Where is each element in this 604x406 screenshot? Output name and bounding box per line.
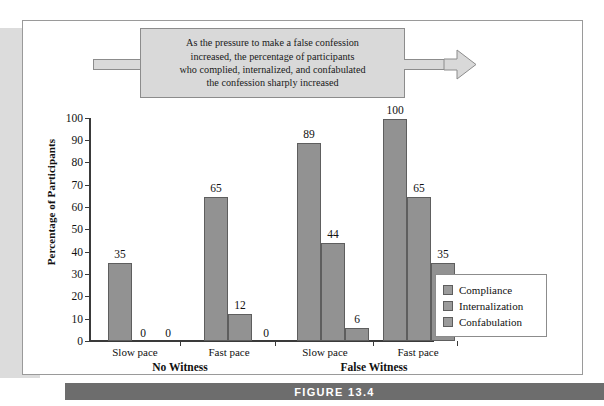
bar-label-falsewitness-fast-compliance: 100 <box>380 104 410 116</box>
x-cluster-label-no-witness: No Witness <box>115 361 245 373</box>
bar-label-nowitness-fast-internalization: 12 <box>225 299 255 311</box>
figure-caption-bar: FIGURE 13.4 <box>65 383 604 400</box>
bar-falsewitness-fast-internalization <box>407 197 431 341</box>
bar-label-falsewitness-fast-internalization: 65 <box>404 182 434 194</box>
legend-swatch-confabulation <box>443 317 453 327</box>
bar-label-nowitness-slow-internalization: 0 <box>135 327 151 339</box>
bar-falsewitness-slow-confabulation <box>345 328 369 341</box>
x-group-label-nowitness-slow: Slow pace <box>95 346 175 358</box>
bar-falsewitness-fast-compliance <box>383 119 407 341</box>
y-tick-label-10: 10 <box>55 313 83 325</box>
bar-nowitness-fast-compliance <box>204 197 228 341</box>
bar-label-falsewitness-slow-compliance: 89 <box>294 128 324 140</box>
x-group-label-falsewitness-fast: Fast pace <box>378 346 458 358</box>
y-tick-label-50: 50 <box>55 223 83 235</box>
figure-panel: As the pressure to make a false confessi… <box>22 20 583 375</box>
legend-item-compliance: Compliance <box>443 282 538 297</box>
bar-label-nowitness-slow-confabulation: 0 <box>160 327 176 339</box>
bar-nowitness-slow-compliance <box>108 263 132 341</box>
legend-swatch-internalization <box>443 301 453 311</box>
bar-label-nowitness-fast-confabulation: 0 <box>258 327 274 339</box>
bar-label-falsewitness-slow-internalization: 44 <box>318 228 348 240</box>
x-tick-mark-2 <box>275 341 276 346</box>
y-tick-label-20: 20 <box>55 290 83 302</box>
y-tick-label-90: 90 <box>55 134 83 146</box>
chart-legend: Compliance Internalization Confabulation <box>435 274 547 337</box>
y-tick-label-100: 100 <box>55 112 83 124</box>
x-group-label-falsewitness-slow: Slow pace <box>285 346 365 358</box>
bar-label-falsewitness-slow-confabulation: 6 <box>342 313 372 325</box>
y-tick-label-70: 70 <box>55 179 83 191</box>
bar-falsewitness-slow-compliance <box>297 143 321 341</box>
legend-swatch-compliance <box>443 285 453 295</box>
bar-nowitness-fast-internalization <box>228 314 252 341</box>
bar-label-nowitness-fast-compliance: 65 <box>201 182 231 194</box>
y-tick-label-30: 30 <box>55 268 83 280</box>
x-tick-mark-1 <box>180 341 181 346</box>
legend-label-compliance: Compliance <box>459 284 512 296</box>
x-cluster-label-false-witness: False Witness <box>309 361 439 373</box>
x-group-label-nowitness-fast: Fast pace <box>189 346 269 358</box>
y-tick-label-80: 80 <box>55 156 83 168</box>
bar-label-falsewitness-fast-confabulation: 35 <box>428 248 458 260</box>
bar-falsewitness-slow-internalization <box>321 243 345 341</box>
chart-plot-area: Percentage of Participants 100 90 80 70 … <box>23 21 584 376</box>
y-tick-label-0: 0 <box>55 335 83 347</box>
y-tick-label-60: 60 <box>55 201 83 213</box>
x-tick-mark-3 <box>373 341 374 346</box>
y-axis-line <box>89 118 91 341</box>
legend-label-confabulation: Confabulation <box>459 316 522 328</box>
legend-label-internalization: Internalization <box>459 300 523 312</box>
y-tick-label-40: 40 <box>55 246 83 258</box>
legend-item-confabulation: Confabulation <box>443 314 538 329</box>
bar-label-nowitness-slow-compliance: 35 <box>105 248 135 260</box>
figure-caption-text: FIGURE 13.4 <box>294 386 374 398</box>
legend-item-internalization: Internalization <box>443 298 538 313</box>
